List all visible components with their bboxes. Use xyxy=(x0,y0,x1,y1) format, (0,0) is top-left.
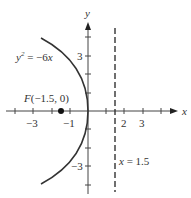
x-tick-label-neg3: −3 xyxy=(26,117,38,129)
x-tick-label-2: 2 xyxy=(121,117,127,129)
focus-label: F(−1.5, 0) xyxy=(23,92,69,105)
equation-rhs: = −6 xyxy=(24,51,48,63)
x-axis-label: x xyxy=(181,105,187,117)
y-axis-arrow-icon xyxy=(85,22,91,30)
directrix-label-value: = 1.5 xyxy=(124,155,150,167)
directrix: x = 1.5 xyxy=(115,28,150,192)
y-axis-label: y xyxy=(84,7,90,19)
y-tick-label-3: 3 xyxy=(77,50,83,62)
equation-label: y2 = −6x xyxy=(15,50,53,63)
focus-label-coords: (−1.5, 0) xyxy=(31,92,70,105)
x-tick-label-neg1: −1 xyxy=(63,117,75,129)
x-axis: x −3 −1 2 3 xyxy=(6,105,187,129)
parabola-diagram: x −3 −1 2 3 y 3 −3 x = 1.5 y2 = −6x xyxy=(0,0,191,198)
y-tick-label-neg3: −3 xyxy=(71,160,83,172)
focus-dot-icon xyxy=(58,108,64,114)
directrix-label: x = 1.5 xyxy=(118,155,150,167)
equation-rhs-var: x xyxy=(47,51,53,63)
x-axis-arrow-icon xyxy=(170,108,178,114)
x-tick-label-3: 3 xyxy=(139,117,145,129)
